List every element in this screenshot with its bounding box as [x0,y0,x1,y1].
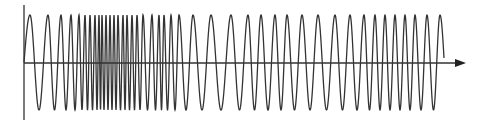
x-axis-arrow-icon [455,59,466,67]
waveform-canvas [0,0,491,126]
chirp-diagram [0,0,491,126]
